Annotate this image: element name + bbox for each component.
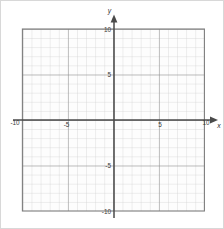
x-tick-label-minus-10: -10 bbox=[10, 119, 20, 126]
y-tick-label-10: 10 bbox=[104, 26, 112, 33]
coordinate-grid-figure: 10 5 -5 -10 -10 -5 5 10 y x bbox=[0, 0, 224, 229]
x-tick-label-minus-5: -5 bbox=[64, 121, 70, 128]
y-axis-arrowhead bbox=[111, 15, 118, 23]
y-axis-name-label: y bbox=[107, 7, 112, 15]
y-tick-label-5: 5 bbox=[107, 71, 111, 78]
y-tick-label-minus-5: -5 bbox=[105, 162, 111, 169]
x-axis-name-label: x bbox=[216, 122, 221, 129]
x-tick-label-5: 5 bbox=[158, 121, 162, 128]
coordinate-plane-svg: 10 5 -5 -10 -10 -5 5 10 y x bbox=[1, 1, 224, 229]
x-tick-label-10: 10 bbox=[202, 119, 210, 126]
y-tick-label-minus-10: -10 bbox=[102, 208, 112, 215]
